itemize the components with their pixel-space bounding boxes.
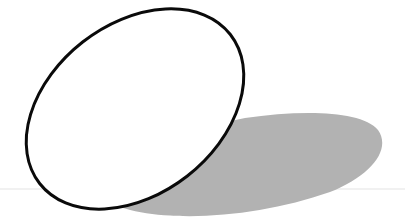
egg-illustration: [0, 0, 405, 224]
